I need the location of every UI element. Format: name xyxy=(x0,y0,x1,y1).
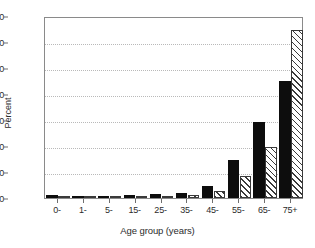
bar-solid-45 xyxy=(202,186,213,198)
y-tick-label: 30 xyxy=(0,116,4,126)
y-tick-label: 0 xyxy=(0,194,4,204)
bar-solid-75plus xyxy=(279,81,290,198)
x-tick-label: 1- xyxy=(79,205,87,215)
x-tick-label: 0- xyxy=(53,205,61,215)
y-tick-mark xyxy=(4,199,8,200)
y-tick-mark xyxy=(4,43,8,44)
x-tick-mark xyxy=(109,199,110,203)
y-axis: Percent 010203040506070 xyxy=(0,0,44,248)
bar-hatched-5 xyxy=(110,196,121,198)
x-tick-mark xyxy=(238,199,239,203)
x-tick-label: 25- xyxy=(154,205,166,215)
y-tick-mark xyxy=(4,69,8,70)
y-tick-label: 10 xyxy=(0,168,4,178)
bar-hatched-15 xyxy=(136,196,147,198)
y-axis-title: Percent xyxy=(3,83,13,143)
bar-solid-1 xyxy=(72,196,83,198)
x-tick-mark xyxy=(57,199,58,203)
bar-solid-25 xyxy=(150,194,161,198)
bar-hatched-55 xyxy=(240,176,251,198)
bar-hatched-65 xyxy=(265,147,276,198)
bar-hatched-1 xyxy=(84,196,95,198)
bar-solid-5 xyxy=(98,196,109,198)
plot-area xyxy=(44,17,303,199)
y-tick-mark xyxy=(4,173,8,174)
bar-hatched-25 xyxy=(162,196,173,198)
y-tick-mark xyxy=(4,147,8,148)
gridline xyxy=(45,96,302,97)
bar-hatched-0 xyxy=(58,196,69,198)
x-tick-mark xyxy=(264,199,265,203)
y-tick-label: 60 xyxy=(0,38,4,48)
x-tick-mark xyxy=(186,199,187,203)
gridline xyxy=(45,70,302,71)
x-tick-label: 55- xyxy=(232,205,244,215)
y-tick-mark xyxy=(4,17,8,18)
bar-solid-0 xyxy=(46,195,57,198)
y-tick-label: 70 xyxy=(0,12,4,22)
x-tick-mark xyxy=(135,199,136,203)
y-tick-mark xyxy=(4,95,8,96)
x-tick-mark xyxy=(83,199,84,203)
x-tick-label: 5- xyxy=(105,205,113,215)
x-tick-mark xyxy=(161,199,162,203)
x-tick-label: 65- xyxy=(258,205,270,215)
x-tick-label: 15- xyxy=(128,205,140,215)
y-tick-label: 50 xyxy=(0,64,4,74)
x-tick-label: 75+ xyxy=(283,205,298,215)
bar-hatched-75plus xyxy=(291,30,302,198)
x-axis-title: Age group (years) xyxy=(0,225,315,236)
y-tick-mark xyxy=(4,121,8,122)
gridline xyxy=(45,44,302,45)
chart-figure: Percent 010203040506070 0-1-5-15-25-35-4… xyxy=(0,0,315,248)
bar-solid-65 xyxy=(253,122,264,198)
x-tick-label: 45- xyxy=(206,205,218,215)
bar-solid-15 xyxy=(124,195,135,198)
bar-hatched-45 xyxy=(214,191,225,198)
x-tick-mark xyxy=(212,199,213,203)
y-tick-label: 40 xyxy=(0,90,4,100)
x-tick-label: 35- xyxy=(180,205,192,215)
x-tick-mark xyxy=(290,199,291,203)
bar-solid-35 xyxy=(176,193,187,198)
y-tick-label: 20 xyxy=(0,142,4,152)
bar-solid-55 xyxy=(228,160,239,198)
bar-hatched-35 xyxy=(188,195,199,198)
